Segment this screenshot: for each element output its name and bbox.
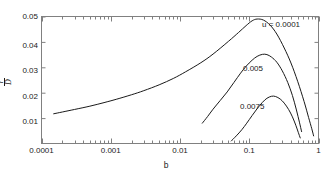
xtick-label: 0.001 (91, 147, 131, 155)
chart-figure: 0.01 0.02 0.03 0.04 0.05 0.0001 0.001 0.… (0, 0, 332, 177)
curve-label-u-0001: u = 0.0001 (262, 21, 300, 29)
ytick-label: 0.04 (12, 42, 38, 50)
xtick-label: 0.0001 (22, 147, 62, 155)
plot-frame (42, 17, 319, 144)
x-axis-label: b (0, 160, 332, 170)
xtick-label: 0.1 (229, 147, 269, 155)
curve-label-0005: 0.005 (243, 65, 263, 73)
xtick-label: 0.01 (160, 147, 200, 155)
ytick-label: 0.05 (12, 13, 38, 21)
data-curves (54, 19, 314, 141)
data-curve-0 (54, 19, 314, 136)
y-axis-label: γ D (0, 62, 24, 102)
y-label-denominator: D (5, 78, 13, 86)
overbar-icon (4, 79, 5, 85)
curve-label-00075: 0.0075 (240, 103, 264, 111)
xtick-label: 1 (299, 147, 332, 155)
ytick-label: 0.01 (12, 118, 38, 126)
